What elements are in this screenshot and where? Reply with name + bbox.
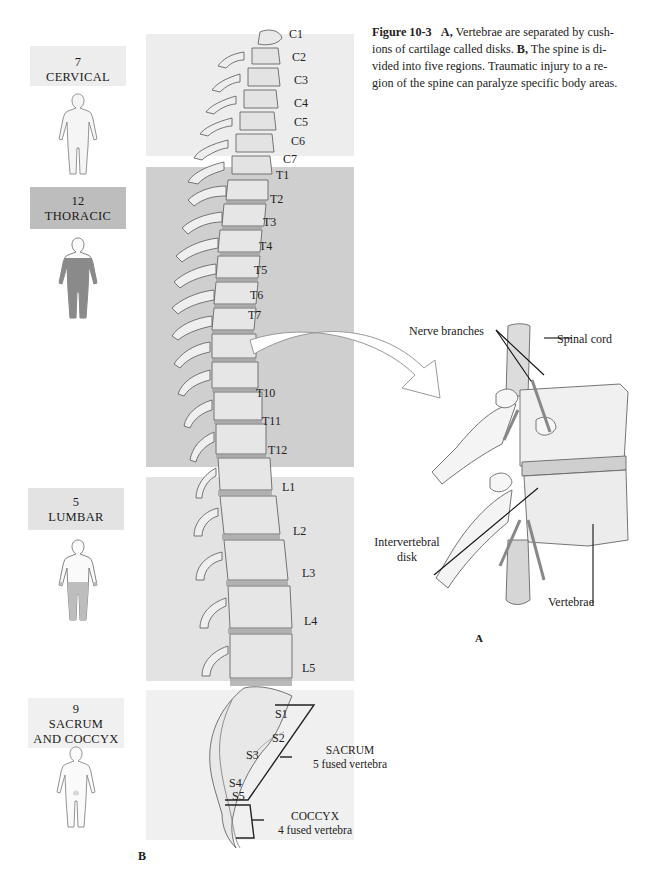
caption-part-a-label: A, xyxy=(441,25,453,39)
label-t4: T4 xyxy=(259,239,272,254)
caption-line-3: vided into five regions. Traumatic injur… xyxy=(372,59,607,73)
label-l3: L3 xyxy=(302,566,315,581)
label-l2: L2 xyxy=(293,524,306,539)
sacral-name: SACRUM xyxy=(28,717,124,732)
thoracic-count: 12 xyxy=(30,194,126,209)
label-c4: C4 xyxy=(294,96,308,111)
label-t2: T2 xyxy=(270,192,283,207)
thoracic-region-label: 12 THORACIC xyxy=(30,187,126,229)
label-t1: T1 xyxy=(276,168,289,183)
person-cervical-icon xyxy=(56,92,100,176)
figure-number: Figure 10-3 xyxy=(372,25,432,39)
label-c2: C2 xyxy=(292,50,306,65)
cervical-count: 7 xyxy=(30,55,126,70)
panel-a-letter: A xyxy=(475,632,483,644)
caption-line-2b: The spine is di- xyxy=(528,42,606,56)
lumbar-region-label: 5 LUMBAR xyxy=(28,488,124,530)
coccyx-title: COCCYX xyxy=(265,809,365,823)
figure-caption: Figure 10-3 A, Vertebrae are separated b… xyxy=(372,24,662,92)
caption-line-4: gion of the spine can paralyze specific … xyxy=(372,76,617,90)
lumbar-count: 5 xyxy=(28,495,124,510)
caption-line-1: Vertebrae are separated by cush- xyxy=(456,25,614,39)
person-thoracic-icon xyxy=(56,236,100,320)
nerve-branches-label: Nerve branches xyxy=(409,324,484,339)
lumbar-name: LUMBAR xyxy=(28,510,124,525)
label-c1: C1 xyxy=(289,27,303,42)
label-c5: C5 xyxy=(294,115,308,130)
sacrum-bracket-label: SACRUM 5 fused vertebra xyxy=(295,743,405,771)
cervical-region-label: 7 CERVICAL xyxy=(30,46,126,86)
sacral-count: 9 xyxy=(28,702,124,717)
label-l5: L5 xyxy=(302,661,315,676)
intervertebral-label-line-1: Intervertebral xyxy=(360,535,454,550)
label-l1: L1 xyxy=(282,480,295,495)
label-t6: T6 xyxy=(250,288,263,303)
label-t3: T3 xyxy=(263,215,276,230)
label-c6: C6 xyxy=(291,134,305,149)
thoracic-name: THORACIC xyxy=(30,209,126,224)
cervical-name: CERVICAL xyxy=(30,70,126,85)
person-sacral-icon xyxy=(54,745,98,829)
label-t5: T5 xyxy=(254,263,267,278)
label-l4: L4 xyxy=(304,614,317,629)
caption-part-b-label: B, xyxy=(517,42,528,56)
label-t12: T12 xyxy=(268,443,287,458)
intervertebral-label-line-2: disk xyxy=(360,550,454,565)
sacrum-coccyx-region-label: 9 SACRUM AND COCCYX xyxy=(28,698,124,748)
panel-a-leader-lines xyxy=(420,320,660,620)
intervertebral-disk-label: Intervertebral disk xyxy=(360,535,454,565)
vertebrae-label: Vertebrae xyxy=(548,595,594,610)
spinal-cord-label: Spinal cord xyxy=(557,332,612,347)
sacrum-subtitle: 5 fused vertebra xyxy=(295,757,405,771)
sacrum-title: SACRUM xyxy=(295,743,405,757)
coccyx-bracket-label: COCCYX 4 fused vertebra xyxy=(265,809,365,837)
person-lumbar-icon xyxy=(56,538,100,622)
label-c3: C3 xyxy=(294,73,308,88)
panel-b-letter: B xyxy=(138,849,146,864)
label-c7: C7 xyxy=(283,152,297,167)
caption-line-2a: ions of cartilage called disks. xyxy=(372,42,517,56)
coccyx-subtitle: 4 fused vertebra xyxy=(265,823,365,837)
